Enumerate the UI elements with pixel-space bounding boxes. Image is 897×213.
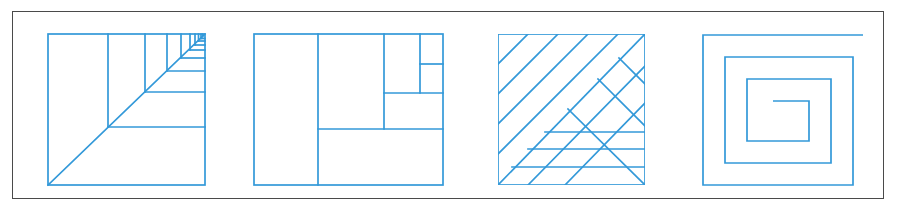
panel3-stripe-4 — [498, 34, 618, 154]
figure-root — [0, 0, 897, 213]
outer-rectangle-border — [12, 11, 884, 199]
panel4-spiral-path — [703, 35, 863, 185]
panel3-fan-diagonal-1 — [568, 109, 645, 185]
panel3-fan-diagonal-2 — [598, 79, 645, 126]
rectangular-spiral-svg — [701, 33, 871, 187]
panel-rectangular-spiral — [701, 33, 871, 187]
panel3-stripe-1 — [498, 34, 528, 64]
staircase-diagonal-svg — [47, 33, 207, 187]
panel-golden-rectangle-subdivision — [253, 33, 445, 187]
panel3-stripe-2 — [498, 34, 558, 94]
golden-rectangle-svg — [253, 33, 445, 187]
panel3-stripe-3 — [498, 34, 588, 124]
panel-staircase-diagonal-square — [47, 33, 207, 187]
panel-diagonal-stripe-square — [497, 33, 647, 187]
diagonal-stripe-svg — [497, 33, 647, 187]
panel2-outer-rect — [254, 34, 443, 185]
